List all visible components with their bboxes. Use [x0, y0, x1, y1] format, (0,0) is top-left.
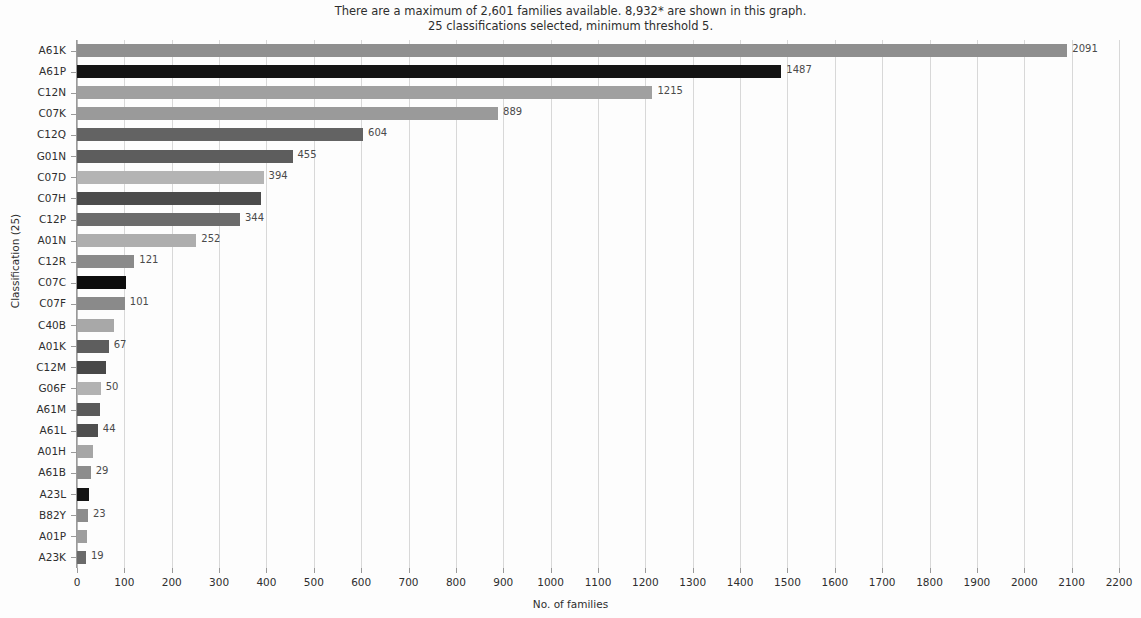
x-axis-label-1100: 1100 [585, 576, 612, 588]
x-axis-tick [1072, 568, 1073, 573]
bar-row[interactable] [77, 484, 1119, 505]
bar[interactable] [77, 509, 88, 522]
bar[interactable] [77, 403, 100, 416]
bar[interactable] [77, 192, 261, 205]
x-axis-tick [977, 568, 978, 573]
y-axis-label-c12q: C12Q [37, 124, 66, 145]
y-axis-label-g01n: G01N [37, 146, 66, 167]
bar-row[interactable] [77, 399, 1119, 420]
x-axis-tick [409, 568, 410, 573]
x-axis-label-1200: 1200 [632, 576, 659, 588]
x-axis-tick [645, 568, 646, 573]
bar-row[interactable]: 604 [77, 124, 1119, 145]
bar-row[interactable] [77, 188, 1119, 209]
bar[interactable] [77, 86, 652, 99]
bar[interactable] [77, 213, 240, 226]
bar-row[interactable]: 121 [77, 251, 1119, 272]
bar[interactable] [77, 276, 126, 289]
bar-row[interactable]: 394 [77, 167, 1119, 188]
x-axis-tick [266, 568, 267, 573]
chart-title-block: There are a maximum of 2,601 families av… [0, 4, 1141, 34]
x-axis-tick [456, 568, 457, 573]
bar[interactable] [77, 319, 114, 332]
chart-title-line-2: 25 classifications selected, minimum thr… [0, 19, 1141, 34]
x-axis-label-2000: 2000 [1011, 576, 1038, 588]
bar-row[interactable] [77, 441, 1119, 462]
bar-row[interactable]: 23 [77, 505, 1119, 526]
bar-row[interactable]: 1215 [77, 82, 1119, 103]
y-axis-label-c07k: C07K [38, 103, 66, 124]
bar-value-label: 344 [240, 212, 264, 223]
x-axis-label-800: 800 [446, 576, 466, 588]
y-axis-label-a61k: A61K [39, 40, 66, 61]
bar-value-label: 455 [293, 149, 317, 160]
bar[interactable] [77, 297, 125, 310]
bar[interactable] [77, 466, 91, 479]
bar[interactable] [77, 150, 293, 163]
bar[interactable] [77, 530, 87, 543]
bar-row[interactable]: 2091 [77, 40, 1119, 61]
x-axis-tick [361, 568, 362, 573]
bar[interactable] [77, 128, 363, 141]
bar[interactable] [77, 107, 498, 120]
x-axis-label-0: 0 [74, 576, 81, 588]
bar-row[interactable]: 67 [77, 336, 1119, 357]
bar-row[interactable]: 889 [77, 103, 1119, 124]
bar[interactable] [77, 44, 1067, 57]
x-axis-tick [693, 568, 694, 573]
x-axis-tick [930, 568, 931, 573]
y-axis-label-a61m: A61M [36, 399, 66, 420]
bar[interactable] [77, 361, 106, 374]
bar-row[interactable]: 44 [77, 420, 1119, 441]
bar-row[interactable]: 455 [77, 146, 1119, 167]
x-axis-tick [314, 568, 315, 573]
bar-row[interactable]: 50 [77, 378, 1119, 399]
chart-page: There are a maximum of 2,601 families av… [0, 0, 1141, 618]
y-axis-label-c07c: C07C [38, 272, 66, 293]
bar-value-label: 252 [196, 233, 220, 244]
bar-row[interactable] [77, 315, 1119, 336]
x-axis-label-1300: 1300 [679, 576, 706, 588]
bar[interactable] [77, 445, 93, 458]
bar[interactable] [77, 255, 134, 268]
y-axis-label-g06f: G06F [38, 378, 66, 399]
y-axis-label-c07h: C07H [37, 188, 66, 209]
x-axis-label-900: 900 [493, 576, 513, 588]
plot-area: 2091148712158896044553943442521211016750… [77, 40, 1119, 568]
bar-row[interactable] [77, 357, 1119, 378]
y-axis-label-a61l: A61L [40, 420, 66, 441]
y-axis-label-c40b: C40B [38, 315, 66, 336]
bar-row[interactable]: 101 [77, 293, 1119, 314]
bar[interactable] [77, 65, 781, 78]
x-axis-label-2200: 2200 [1106, 576, 1133, 588]
bar-value-label: 889 [498, 106, 522, 117]
x-axis-tick [882, 568, 883, 573]
x-axis-label-2100: 2100 [1058, 576, 1085, 588]
bar-row[interactable]: 29 [77, 462, 1119, 483]
x-axis-tick [787, 568, 788, 573]
bar[interactable] [77, 234, 196, 247]
bar-row[interactable]: 252 [77, 230, 1119, 251]
bar-value-label: 67 [109, 339, 127, 350]
bar[interactable] [77, 340, 109, 353]
bar-row[interactable]: 19 [77, 547, 1119, 568]
bar-row[interactable] [77, 272, 1119, 293]
bar[interactable] [77, 424, 98, 437]
x-axis-title: No. of families [0, 598, 1141, 610]
bar-value-label: 101 [125, 296, 149, 307]
x-axis-label-600: 600 [351, 576, 371, 588]
x-axis-tick [551, 568, 552, 573]
bar[interactable] [77, 551, 86, 564]
bar[interactable] [77, 171, 264, 184]
x-axis-label-400: 400 [256, 576, 276, 588]
y-axis-label-a23k: A23K [39, 547, 66, 568]
x-axis-tick [219, 568, 220, 573]
bar[interactable] [77, 382, 101, 395]
x-axis-label-1700: 1700 [869, 576, 896, 588]
bar-row[interactable]: 344 [77, 209, 1119, 230]
y-axis-label-a01p: A01P [39, 526, 66, 547]
bar-row[interactable]: 1487 [77, 61, 1119, 82]
bar[interactable] [77, 488, 89, 501]
bar-row[interactable] [77, 526, 1119, 547]
bar-value-label: 394 [264, 170, 288, 181]
